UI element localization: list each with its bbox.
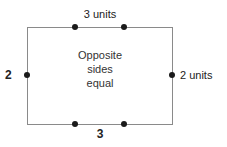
top-division-point-1-dot (72, 24, 78, 30)
top-division-point-2-dot (121, 24, 127, 30)
rectangle-bottom-edge (27, 124, 173, 125)
rectangle-top-edge (27, 27, 173, 28)
center-caption: Opposite sides equal (27, 48, 173, 90)
caption-line-3: equal (27, 76, 173, 90)
caption-line-2: sides (27, 62, 173, 76)
bottom-side-length-label: 3 (0, 128, 200, 141)
rectangle-diagram: 3 units 3 2 2 units Opposite sides equal (0, 0, 227, 147)
caption-line-1: Opposite (27, 48, 173, 62)
right-side-length-label: 2 units (180, 69, 212, 82)
bottom-division-point-1-dot (72, 121, 78, 127)
top-side-length-label: 3 units (0, 8, 200, 21)
bottom-division-point-2-dot (121, 121, 127, 127)
left-side-length-label: 2 (5, 69, 12, 82)
